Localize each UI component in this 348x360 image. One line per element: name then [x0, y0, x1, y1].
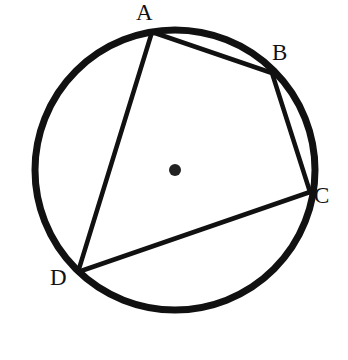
vertex-label-c: C	[314, 184, 329, 207]
chord-DA	[78, 32, 152, 272]
circle-center-point	[169, 164, 181, 176]
vertex-label-d: D	[50, 266, 67, 289]
vertex-label-b: B	[272, 41, 287, 64]
chord-CD	[78, 192, 310, 272]
geometry-diagram	[0, 0, 348, 360]
geometry-figure-canvas: A B C D	[0, 0, 348, 360]
vertex-label-a: A	[136, 1, 153, 24]
